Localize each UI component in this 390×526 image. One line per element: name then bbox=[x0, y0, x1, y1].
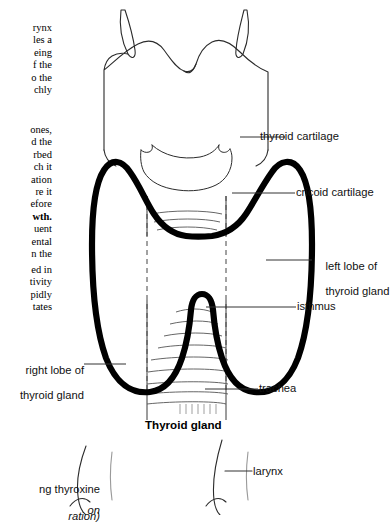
body-line: uent bbox=[0, 223, 52, 235]
body-line: d the bbox=[0, 136, 52, 148]
label-left-lobe-line2: thyroid gland bbox=[325, 285, 389, 297]
right-lamina-edge bbox=[256, 150, 268, 166]
trachea-ring-bottom bbox=[147, 402, 226, 404]
body-line-bold: wth. bbox=[0, 211, 52, 223]
left-lamina-edge bbox=[104, 150, 116, 166]
body-line: tates bbox=[0, 301, 52, 313]
superior-thyroid-notch bbox=[184, 64, 196, 73]
body-line: n the bbox=[0, 248, 52, 260]
neck-right-inner-contour bbox=[247, 452, 249, 500]
leader-lines bbox=[84, 137, 312, 389]
body-line: tivity bbox=[0, 276, 52, 288]
body-line: les a bbox=[0, 34, 52, 46]
truncated-paragraph-2: ones, d the rbed ch it ation re it efore… bbox=[0, 124, 52, 260]
body-line: ental bbox=[0, 236, 52, 248]
body-line: rynx bbox=[0, 22, 52, 34]
body-line: rbed bbox=[0, 149, 52, 161]
label-trachea: trachea bbox=[259, 382, 296, 395]
body-line: re it bbox=[0, 186, 52, 198]
footnote-truncated: ng thyroxine ration) bbox=[0, 470, 100, 526]
body-line: ed in bbox=[0, 264, 52, 276]
cricoid-cartilage-shape bbox=[141, 145, 232, 191]
body-line: pidly bbox=[0, 289, 52, 301]
body-line: ch it bbox=[0, 161, 52, 173]
dashed-guide-lines bbox=[147, 196, 226, 392]
trachea-shape bbox=[147, 196, 229, 420]
body-line: ones, bbox=[0, 124, 52, 136]
label-larynx: larynx bbox=[253, 465, 283, 478]
neck-right-arc bbox=[206, 499, 226, 506]
body-line: ation bbox=[0, 174, 52, 186]
body-line: efore bbox=[0, 198, 52, 210]
label-right-lobe-line1: right lobe of bbox=[26, 364, 84, 376]
label-right-lobe-line2: thyroid gland bbox=[20, 389, 84, 401]
label-left-lobe-line1: left lobe of bbox=[325, 260, 377, 272]
neck-right-contour bbox=[213, 440, 222, 515]
truncated-paragraph-1: rynx les a eing f the o the chly bbox=[0, 22, 52, 96]
body-line: f the bbox=[0, 59, 52, 71]
right-superior-horn bbox=[236, 10, 249, 57]
trachea-rings-lower bbox=[147, 309, 229, 394]
label-cricoid-cartilage: cricoid cartilage bbox=[296, 186, 374, 199]
cricoid-upper-border bbox=[152, 145, 219, 158]
label-isthmus: isthmus bbox=[297, 300, 336, 313]
label-thyroid-cartilage: thyroid cartilage bbox=[260, 130, 339, 143]
footnote-italic-truncated: on bbox=[0, 504, 100, 516]
left-superior-horn bbox=[120, 10, 135, 57]
cricoid-left-tip bbox=[141, 145, 152, 152]
figure-caption: Thyroid gland bbox=[145, 418, 222, 431]
neck-left-inner-contour bbox=[111, 452, 113, 500]
trachea-rings-upper bbox=[152, 211, 222, 230]
thyroid-gland-outline bbox=[92, 162, 312, 392]
cricoid-right-tip bbox=[219, 145, 230, 152]
truncated-paragraph-3: ed in tivity pidly tates bbox=[0, 264, 52, 314]
body-line: eing bbox=[0, 47, 52, 59]
thyroid-cartilage-body bbox=[104, 40, 268, 150]
thyroid-cartilage-shape bbox=[104, 10, 268, 166]
trachea-hatching bbox=[180, 404, 216, 414]
cricoid-arch bbox=[141, 149, 232, 191]
footnote-line-1: ng thyroxine bbox=[39, 483, 100, 495]
body-line: chly bbox=[0, 84, 52, 96]
label-right-lobe: right lobe of thyroid gland bbox=[0, 351, 84, 414]
body-line: o the bbox=[0, 72, 52, 84]
